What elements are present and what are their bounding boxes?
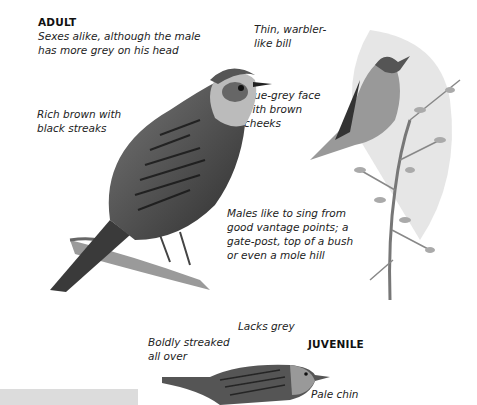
streaked-label-line1: Boldly streaked [148, 335, 230, 349]
singing-bird-illustration [300, 20, 477, 310]
adult-heading: ADULT [38, 16, 76, 28]
juvenile-bird-illustration [160, 355, 335, 405]
lacks-grey-label: Lacks grey [238, 319, 295, 333]
juvenile-heading: JUVENILE [308, 338, 364, 350]
adult-bird-illustration [40, 40, 280, 300]
grey-bar [0, 389, 138, 405]
